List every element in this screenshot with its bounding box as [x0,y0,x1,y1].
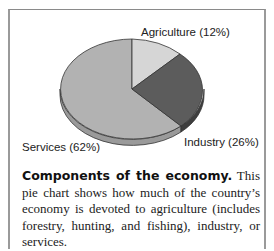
label-industry: Industry (26%) [184,136,259,148]
label-agriculture: Agriculture (12%) [141,26,230,38]
caption-heading: Components of the economy. [22,168,232,183]
label-services: Services (62%) [22,141,100,153]
figure-caption: Components of the economy. This pie char… [22,168,260,251]
